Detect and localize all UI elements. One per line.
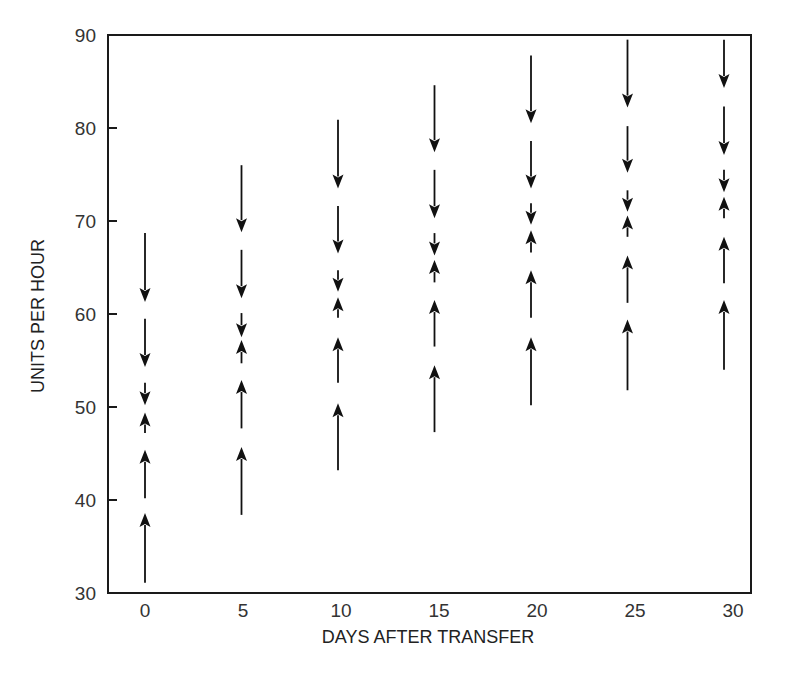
y-tick-label: 40 [75,490,96,511]
x-tick-label: 20 [526,600,547,621]
y-tick-label: 70 [75,211,96,232]
x-tick-label: 0 [140,600,151,621]
chart: 30405060708090 051015202530 DAYS AFTER T… [0,0,789,675]
x-tick-label: 5 [238,600,249,621]
y-tick-label: 90 [75,25,96,46]
y-tick-label: 30 [75,583,96,604]
y-tick-label: 80 [75,118,96,139]
x-tick-label: 30 [722,600,743,621]
y-axis-title: UNITS PER HOUR [28,239,48,393]
x-axis-title: DAYS AFTER TRANSFER [322,627,534,647]
x-tick-label: 25 [624,600,645,621]
x-tick-label: 15 [428,600,449,621]
y-tick-label: 60 [75,304,96,325]
y-tick-label: 50 [75,397,96,418]
chart-background [0,0,789,675]
x-tick-label: 10 [330,600,351,621]
